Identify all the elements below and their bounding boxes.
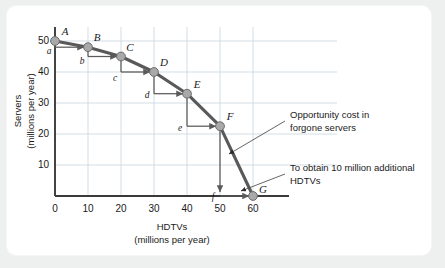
annotation-opportunity-cost-line1: Opportunity cost in [290, 109, 369, 120]
annotation-leaders [229, 121, 285, 191]
x-axis-title-main: HDTVs [157, 221, 188, 232]
x-tick-40: 40 [181, 203, 193, 214]
step-label-c: c [113, 73, 118, 83]
x-tick-30: 30 [148, 203, 160, 214]
x-tick-labels: 0 10 20 30 40 50 60 [52, 203, 259, 214]
data-point-label-F: F [226, 110, 234, 122]
x-tick-10: 10 [82, 203, 94, 214]
annotation-additional-hdtvs: To obtain 10 million additional HDTVs [290, 162, 415, 186]
data-point-A[interactable] [51, 37, 60, 46]
ppf-chart: 50 40 30 20 10 0 10 20 30 40 50 60 HDTVs… [7, 6, 431, 255]
step-arrow-labels: a b c d e f [47, 46, 216, 202]
x-tick-20: 20 [115, 203, 127, 214]
leader-line-opportunity-cost [229, 121, 285, 154]
annotation-additional-hdtvs-line1: To obtain 10 million additional [290, 162, 415, 173]
annotation-opportunity-cost-line2: forgone servers [290, 122, 356, 133]
step-label-f: f [212, 192, 216, 202]
data-point-G[interactable] [249, 192, 258, 201]
y-axis-title-main: Servers [12, 94, 23, 127]
figure-card: 50 40 30 20 10 0 10 20 30 40 50 60 HDTVs… [7, 6, 431, 255]
step-label-e: e [178, 123, 182, 133]
y-tick-10: 10 [38, 159, 50, 170]
x-tick-60: 60 [247, 203, 259, 214]
step-label-d: d [145, 90, 150, 100]
axes [55, 27, 289, 196]
y-tick-40: 40 [38, 66, 50, 77]
y-tick-20: 20 [38, 128, 50, 139]
data-point-C[interactable] [117, 52, 126, 61]
x-axis-title: HDTVs (millions per year) [134, 221, 210, 245]
x-axis-title-sub: (millions per year) [134, 234, 210, 245]
y-tick-30: 30 [38, 97, 50, 108]
x-tick-50: 50 [214, 203, 226, 214]
data-point-E[interactable] [183, 89, 192, 98]
chart-svg: 50 40 30 20 10 0 10 20 30 40 50 60 HDTVs… [7, 6, 431, 255]
data-point-label-E: E [193, 78, 201, 90]
annotation-opportunity-cost: Opportunity cost in forgone servers [290, 109, 369, 133]
y-axis-title-sub: (millions per year) [25, 73, 36, 149]
data-point-label-B: B [94, 31, 101, 43]
step-label-b: b [80, 56, 85, 66]
data-point-F[interactable] [216, 122, 225, 131]
annotation-additional-hdtvs-line2: HDTVs [290, 175, 321, 186]
y-tick-50: 50 [38, 35, 50, 46]
data-point-label-G: G [259, 183, 267, 195]
data-point-label-D: D [159, 56, 168, 68]
data-point-B[interactable] [84, 43, 93, 52]
x-tick-0: 0 [52, 203, 58, 214]
step-label-a: a [47, 46, 52, 56]
data-point-D[interactable] [150, 68, 159, 77]
data-point-label-C: C [126, 41, 134, 53]
data-point-label-A: A [61, 25, 69, 37]
y-axis-title: Servers (millions per year) [12, 73, 36, 149]
